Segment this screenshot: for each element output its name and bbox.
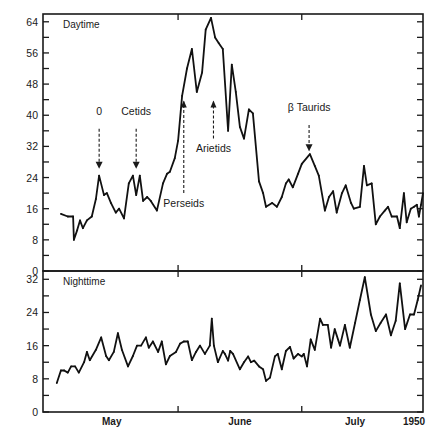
data-point bbox=[297, 353, 299, 355]
data-point bbox=[145, 337, 147, 339]
y-tick-label: 24 bbox=[26, 306, 38, 318]
data-point bbox=[314, 349, 316, 351]
data-point bbox=[148, 347, 150, 349]
data-point bbox=[341, 192, 343, 194]
data-point bbox=[82, 227, 84, 229]
y-tick-label: 16 bbox=[26, 340, 38, 352]
data-point bbox=[95, 198, 97, 200]
data-point bbox=[277, 353, 279, 355]
data-point bbox=[413, 206, 415, 208]
data-point bbox=[177, 140, 179, 142]
data-point bbox=[222, 350, 224, 352]
data-point bbox=[258, 181, 260, 183]
data-point bbox=[328, 196, 330, 198]
data-point bbox=[271, 202, 273, 204]
data-point bbox=[79, 220, 81, 222]
data-point bbox=[128, 183, 130, 185]
data-point bbox=[384, 210, 386, 212]
data-point bbox=[350, 202, 352, 204]
data-point bbox=[371, 183, 373, 185]
data-point bbox=[289, 346, 291, 348]
data-point bbox=[380, 322, 382, 324]
data-point bbox=[63, 370, 65, 372]
data-point bbox=[248, 109, 250, 111]
data-point bbox=[379, 216, 381, 218]
data-point bbox=[73, 239, 75, 241]
data-point bbox=[420, 285, 422, 287]
annotation-label: Perseids bbox=[163, 197, 204, 209]
data-point bbox=[324, 210, 326, 212]
data-point bbox=[181, 95, 183, 97]
daytime-series-line bbox=[61, 18, 423, 240]
data-point bbox=[276, 206, 278, 208]
data-point bbox=[157, 351, 159, 353]
data-point bbox=[227, 360, 229, 362]
data-point bbox=[265, 380, 267, 382]
data-point bbox=[150, 200, 152, 202]
data-point bbox=[247, 356, 249, 358]
daytime-plot-frame bbox=[43, 14, 423, 271]
arrow-down-icon bbox=[96, 162, 103, 169]
data-point bbox=[235, 91, 237, 93]
data-point bbox=[303, 353, 305, 355]
y-tick-label: 56 bbox=[26, 47, 38, 59]
data-point bbox=[89, 359, 91, 361]
data-point bbox=[166, 173, 168, 175]
y-tick-label: 64 bbox=[26, 16, 38, 28]
data-point bbox=[314, 165, 316, 167]
data-point bbox=[135, 194, 137, 196]
data-point bbox=[118, 208, 120, 210]
data-point bbox=[140, 345, 142, 347]
data-point bbox=[72, 216, 74, 218]
data-point bbox=[353, 208, 355, 210]
data-point bbox=[330, 347, 332, 349]
data-point bbox=[292, 186, 294, 188]
data-point bbox=[222, 48, 224, 50]
data-point bbox=[95, 349, 97, 351]
data-point bbox=[288, 179, 290, 181]
annotation-label: 0 bbox=[96, 105, 102, 117]
data-point bbox=[174, 157, 176, 159]
data-point bbox=[262, 368, 264, 370]
y-tick-label: 8 bbox=[32, 373, 38, 385]
data-point bbox=[183, 341, 185, 343]
x-month-label: June bbox=[228, 416, 252, 427]
data-point bbox=[169, 171, 171, 173]
data-point bbox=[370, 314, 372, 316]
data-point bbox=[265, 206, 267, 208]
arrow-down-icon bbox=[306, 144, 313, 151]
data-point bbox=[113, 351, 115, 353]
data-point bbox=[281, 196, 283, 198]
data-point bbox=[391, 216, 393, 218]
data-point bbox=[217, 361, 219, 363]
data-point bbox=[60, 213, 62, 215]
data-point bbox=[310, 339, 312, 341]
data-point bbox=[169, 355, 171, 357]
data-point bbox=[56, 382, 58, 384]
data-point bbox=[123, 218, 125, 220]
data-point bbox=[86, 351, 88, 353]
data-point bbox=[274, 356, 276, 358]
data-point bbox=[293, 358, 295, 360]
data-point bbox=[175, 351, 177, 353]
data-point bbox=[301, 356, 303, 358]
data-point bbox=[253, 360, 255, 362]
data-point bbox=[205, 29, 207, 31]
annotation-label: Cetids bbox=[121, 105, 151, 117]
data-point bbox=[322, 324, 324, 326]
data-point bbox=[115, 212, 117, 214]
data-point bbox=[403, 192, 405, 194]
data-point bbox=[239, 368, 241, 370]
data-point bbox=[243, 361, 245, 363]
data-point bbox=[395, 320, 397, 322]
daytime-panel: 0816243240485664Daytime0CetidsPerseidsAr… bbox=[26, 14, 424, 277]
data-point bbox=[201, 72, 203, 74]
data-point bbox=[410, 208, 412, 210]
annotation-label: Arietids bbox=[196, 142, 231, 154]
data-point bbox=[136, 345, 138, 347]
data-point bbox=[301, 163, 303, 165]
arrow-up-icon bbox=[210, 101, 216, 108]
data-point bbox=[406, 221, 408, 223]
data-point bbox=[106, 192, 108, 194]
daytime-label: Daytime bbox=[63, 19, 100, 30]
